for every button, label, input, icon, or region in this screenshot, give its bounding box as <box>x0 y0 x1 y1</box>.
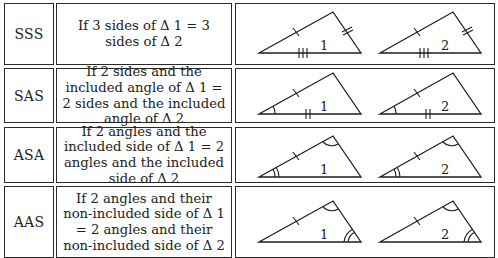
aas-triangles-figure: 1 2 <box>236 187 494 257</box>
sss-triangles-figure: 1 2 <box>236 4 494 64</box>
triangle-label: 1 <box>320 227 328 242</box>
row-asa-figure-cell: 1 2 <box>235 127 495 183</box>
triangle-label: 1 <box>320 38 328 53</box>
criterion-description: If 2 sides and the included angle of Δ 1… <box>57 64 231 126</box>
criterion-abbr: ASA <box>14 147 44 163</box>
triangle-label: 2 <box>441 38 449 53</box>
criterion-description: If 3 sides of Δ 1 = 3 sides of Δ 2 <box>57 18 231 49</box>
sas-triangles-figure: 1 2 <box>236 69 494 122</box>
triangle-label: 1 <box>320 162 328 177</box>
triangle-label: 2 <box>441 162 449 177</box>
row-sss-figure-cell: 1 2 <box>235 3 495 65</box>
triangle-label: 2 <box>441 227 449 242</box>
criterion-abbr: SSS <box>15 26 44 42</box>
row-asa-abbr-cell: ASA <box>4 127 54 183</box>
triangle-1: 1 <box>259 12 361 58</box>
row-asa-description-cell: If 2 angles and the included side of Δ 1… <box>56 127 232 183</box>
triangle-2: 2 <box>380 12 481 58</box>
row-sss-abbr-cell: SSS <box>4 3 54 65</box>
row-aas-figure-cell: 1 2 <box>235 186 495 258</box>
triangle-1: 1 <box>259 201 361 242</box>
row-sss-description-cell: If 3 sides of Δ 1 = 3 sides of Δ 2 <box>56 3 232 65</box>
triangle-2: 2 <box>380 136 481 177</box>
criterion-description: If 2 angles and their non-included side … <box>57 191 231 253</box>
row-sas-description-cell: If 2 sides and the included angle of Δ 1… <box>56 68 232 123</box>
triangle-1: 1 <box>259 73 361 119</box>
triangle-2: 2 <box>380 201 481 242</box>
row-sas-abbr-cell: SAS <box>4 68 54 123</box>
triangle-2: 2 <box>380 73 481 119</box>
criterion-abbr: SAS <box>14 88 44 104</box>
row-aas-description-cell: If 2 angles and their non-included side … <box>56 186 232 258</box>
triangle-1: 1 <box>259 136 361 177</box>
triangle-label: 1 <box>320 99 328 114</box>
criterion-description: If 2 angles and the included side of Δ 1… <box>57 124 231 186</box>
row-sas-figure-cell: 1 2 <box>235 68 495 123</box>
asa-triangles-figure: 1 2 <box>236 128 494 182</box>
criterion-abbr: AAS <box>14 214 44 230</box>
triangle-label: 2 <box>441 99 449 114</box>
row-aas-abbr-cell: AAS <box>4 186 54 258</box>
